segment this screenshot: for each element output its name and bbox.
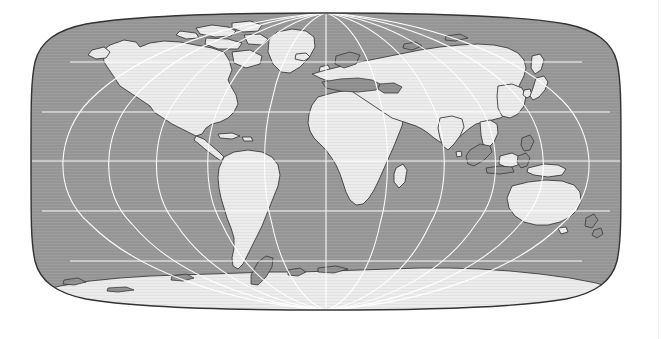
right-edge-rule	[658, 0, 659, 339]
figure-canvas	[0, 0, 663, 339]
world-map[interactable]	[0, 0, 663, 339]
landmass-caribbean-islands	[242, 137, 253, 141]
landmass-indonesia	[486, 166, 514, 174]
landmass-sri-lanka	[456, 151, 462, 157]
